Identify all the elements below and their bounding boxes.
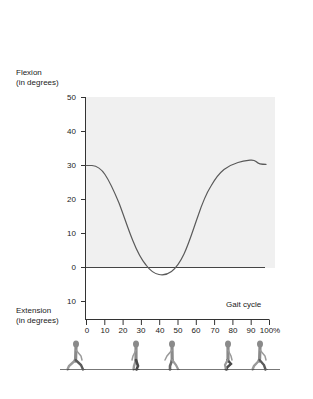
walking-figure bbox=[165, 340, 180, 369]
y-tick-label: 10 bbox=[54, 298, 76, 306]
walking-figure bbox=[67, 340, 86, 369]
y-axis-ticks bbox=[81, 98, 86, 302]
y-tick-label: 40 bbox=[54, 128, 76, 136]
y-tick-label: 10 bbox=[54, 230, 76, 238]
y-tick-label: 20 bbox=[54, 196, 76, 204]
y-tick-label: 0 bbox=[54, 264, 76, 272]
walking-figure bbox=[225, 340, 233, 369]
walking-figure bbox=[132, 340, 140, 369]
plot-background bbox=[86, 97, 275, 268]
chart-svg bbox=[0, 0, 313, 399]
y-tick-label: 30 bbox=[54, 162, 76, 170]
x-tick-label: 100% bbox=[255, 327, 285, 335]
gait-cycle-knee-angle-figure: Flexion (in degrees) Extension (in degre… bbox=[0, 0, 313, 399]
y-tick-label: 50 bbox=[54, 94, 76, 102]
x-axis-ticks bbox=[87, 320, 270, 326]
walking-figure bbox=[252, 340, 269, 369]
